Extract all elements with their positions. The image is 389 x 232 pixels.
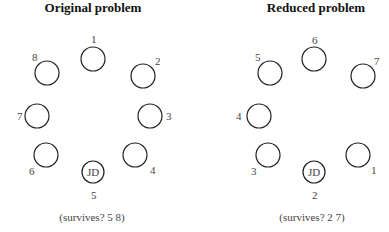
node-label: 1 — [91, 33, 97, 45]
panel-reduced: Reduced problem 671345JD2 (survives? 2 7… — [236, 0, 380, 224]
node-label: 6 — [29, 165, 35, 177]
node-label: 4 — [236, 110, 242, 122]
node-label: 2 — [155, 55, 161, 67]
person-node — [351, 64, 375, 88]
jd-text: JD — [308, 166, 320, 178]
panel-original: Original problem 1234678JD5 (survives? 5… — [17, 0, 172, 224]
node-label: 4 — [150, 164, 156, 176]
person-node — [25, 104, 49, 128]
person-node — [258, 61, 282, 85]
node-label: 6 — [312, 34, 318, 46]
person-node — [256, 143, 280, 167]
person-node — [123, 143, 147, 167]
person-node — [35, 61, 59, 85]
person-node — [247, 104, 271, 128]
panel-title: Reduced problem — [267, 0, 366, 15]
person-node — [34, 143, 58, 167]
node-label: 8 — [32, 51, 38, 63]
person-node — [131, 64, 155, 88]
person-node — [81, 47, 105, 71]
person-node — [302, 47, 326, 71]
node-label: 3 — [166, 110, 172, 122]
jd-text: JD — [87, 166, 99, 178]
node-label: 5 — [91, 189, 97, 201]
panel-caption: (survives? 2 7) — [279, 211, 345, 224]
node-label: 5 — [255, 51, 261, 63]
node-label: 3 — [251, 165, 257, 177]
panel-caption: (survives? 5 8) — [59, 211, 125, 224]
josephus-diagram: Original problem 1234678JD5 (survives? 5… — [0, 0, 389, 232]
panel-title: Original problem — [45, 0, 142, 15]
node-label: 7 — [17, 110, 23, 122]
node-label: 1 — [371, 164, 377, 176]
node-label: 2 — [312, 189, 318, 201]
person-node — [346, 143, 370, 167]
node-label: 7 — [374, 55, 380, 67]
person-node — [138, 104, 162, 128]
